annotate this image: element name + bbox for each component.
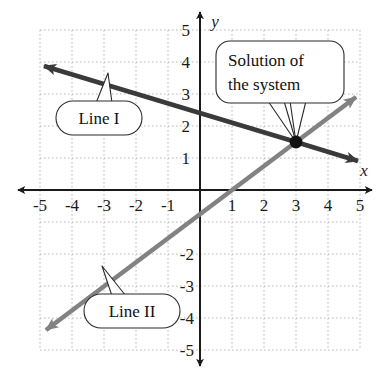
line-1-callout-tail — [96, 73, 112, 103]
y-tick-3: 3 — [182, 85, 191, 104]
x-tick--5: -5 — [33, 196, 47, 215]
y-tick-labels-positive: 1 2 3 4 5 — [182, 21, 191, 168]
y-tick-5: 5 — [182, 21, 191, 40]
x-tick-3: 3 — [292, 196, 301, 215]
x-tick-5: 5 — [356, 196, 365, 215]
y-tick-2: 2 — [182, 117, 191, 136]
line-1-callout[interactable]: Line I — [56, 101, 142, 135]
intersection-point-marker — [290, 136, 303, 149]
x-tick--4: -4 — [65, 196, 80, 215]
y-tick-4: 4 — [182, 53, 191, 72]
solution-callout-line-2: the system — [228, 75, 300, 94]
y-tick-labels-negative: -2 -3 -4 -5 — [180, 245, 195, 360]
graph-canvas: x y -5 -4 -3 -2 -1 1 2 3 4 5 1 2 3 4 5 -… — [0, 0, 388, 371]
x-tick-1: 1 — [228, 196, 237, 215]
x-tick-4: 4 — [324, 196, 333, 215]
x-tick-labels: -5 -4 -3 -2 -1 1 2 3 4 5 — [33, 196, 364, 215]
line-2-callout[interactable]: Line II — [84, 294, 180, 328]
x-tick--2: -2 — [129, 196, 143, 215]
y-axis-label: y — [209, 12, 219, 31]
y-tick-1: 1 — [182, 149, 191, 168]
y-tick--5: -5 — [180, 341, 194, 360]
line-2-callout-label: Line II — [109, 302, 156, 321]
x-tick--3: -3 — [97, 196, 111, 215]
solution-callout-line-1: Solution of — [228, 51, 304, 70]
y-tick--4: -4 — [180, 309, 195, 328]
x-tick--1: -1 — [161, 196, 175, 215]
line-1-callout-label: Line I — [78, 109, 119, 128]
y-tick--3: -3 — [180, 277, 194, 296]
y-tick--2: -2 — [180, 245, 194, 264]
coordinate-graph: x y -5 -4 -3 -2 -1 1 2 3 4 5 1 2 3 4 5 -… — [0, 0, 388, 371]
x-tick-2: 2 — [260, 196, 269, 215]
x-axis-label: x — [359, 161, 368, 180]
solution-callout[interactable]: Solution of the system — [216, 41, 344, 103]
